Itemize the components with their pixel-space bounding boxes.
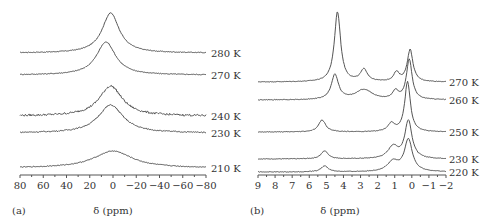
temperature-label: 250 K (449, 127, 479, 138)
temperature-label: 230 K (449, 154, 479, 165)
x-axis-title: δ (ppm) (320, 205, 359, 216)
spectrum-trace (258, 59, 446, 100)
x-tick-label: 8 (272, 180, 278, 191)
temperature-label: 260 K (449, 95, 479, 106)
x-tick-label: −60 (172, 180, 193, 191)
x-tick-label: −2 (439, 180, 454, 191)
nmr-spectra-figure: 280 K270 K240 K230 K210 K806040200−20−40… (0, 0, 484, 224)
x-axis-title: δ (ppm) (93, 205, 132, 216)
x-tick-label: 20 (83, 180, 96, 191)
spectrum-trace (258, 81, 446, 132)
spectrum-trace (20, 42, 206, 75)
x-tick-label: 0 (110, 180, 116, 191)
panel-label: (b) (250, 205, 264, 216)
x-tick-label: 60 (37, 180, 50, 191)
x-tick-label: −1 (422, 180, 437, 191)
panel-a-spectra: 280 K270 K240 K230 K210 K806040200−20−40… (12, 13, 241, 216)
x-tick-label: −80 (195, 180, 216, 191)
x-tick-label: 40 (60, 180, 73, 191)
spectrum-trace (20, 13, 206, 53)
x-tick-label: −20 (126, 180, 147, 191)
temperature-label: 270 K (211, 70, 241, 81)
temperature-label: 280 K (211, 48, 241, 59)
panel-label: (a) (12, 205, 26, 216)
temperature-label: 220 K (449, 167, 479, 178)
x-tick-label: 6 (306, 180, 312, 191)
spectrum-trace (20, 85, 206, 116)
x-tick-label: 2 (374, 180, 380, 191)
spectrum-trace (258, 120, 446, 160)
temperature-label: 240 K (211, 111, 241, 122)
spectrum-trace (20, 105, 206, 133)
temperature-label: 230 K (211, 128, 241, 139)
x-tick-label: 5 (323, 180, 329, 191)
temperature-label: 270 K (449, 77, 479, 88)
spectrum-trace (258, 138, 446, 172)
x-tick-label: 9 (255, 180, 261, 191)
spectrum-trace (258, 12, 446, 82)
x-tick-label: 4 (340, 180, 346, 191)
x-tick-label: 1 (392, 180, 398, 191)
x-tick-label: 80 (14, 180, 27, 191)
x-tick-label: 0 (409, 180, 415, 191)
x-tick-label: 3 (357, 180, 363, 191)
temperature-label: 210 K (211, 163, 241, 174)
x-tick-label: −40 (149, 180, 170, 191)
spectrum-trace (20, 151, 206, 168)
panel-b-spectra: 270 K260 K250 K230 K220 K9876543210−1−2δ… (250, 12, 479, 216)
x-tick-label: 7 (289, 180, 295, 191)
